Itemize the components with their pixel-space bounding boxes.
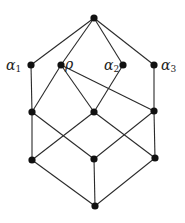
label-rho: ρ: [64, 56, 74, 72]
node-m2: [90, 108, 97, 115]
edge-l2-bot: [94, 159, 95, 206]
node-m1: [28, 108, 35, 115]
nodes-group: [27, 14, 158, 209]
node-rho: [57, 61, 64, 68]
hasse-diagram: α1ρα2α3: [0, 0, 185, 223]
node-l1: [28, 156, 35, 163]
edge-rho-m1: [32, 65, 61, 112]
edge-a1-m1: [31, 65, 32, 112]
node-m3: [150, 107, 157, 114]
edge-rho-m2: [61, 65, 94, 112]
node-a3: [150, 61, 157, 68]
node-a1: [27, 61, 34, 68]
node-bot: [91, 202, 98, 209]
edge-m3-l3: [154, 111, 155, 158]
edge-l3-bot: [95, 158, 155, 206]
label-a2: α2: [104, 57, 119, 74]
node-a2: [119, 61, 126, 68]
label-a1: α1: [6, 57, 21, 74]
node-l3: [151, 154, 158, 161]
edge-l1-bot: [32, 160, 95, 206]
node-l2: [90, 155, 97, 162]
edge-top-a3: [94, 18, 154, 65]
edge-top-a1: [31, 18, 94, 65]
node-top: [90, 14, 97, 21]
label-a3: α3: [161, 57, 176, 74]
